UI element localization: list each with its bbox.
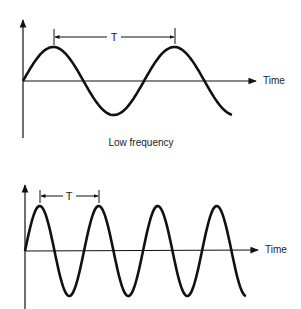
time-axis-label: Time [263,75,285,86]
high-frequency-panel: T Time [25,185,287,309]
time-axis [25,250,258,251]
caption-low-frequency: Low frequency [108,137,173,148]
sine-wave-diagram: T Time Low frequency T Time [0,0,301,309]
period-label: T [66,190,73,202]
period-label: T [111,31,118,43]
low-frequency-panel: T Time Low frequency [23,20,285,148]
time-axis-label: Time [265,244,287,255]
